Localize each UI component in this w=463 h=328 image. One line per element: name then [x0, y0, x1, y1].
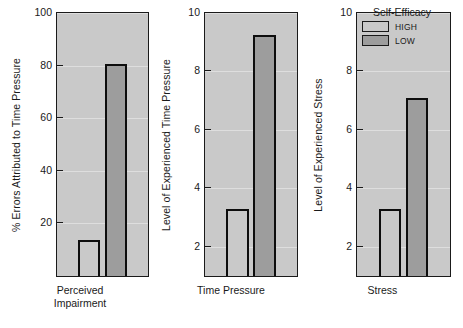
y-axis-tick-label: 20 [0, 216, 52, 228]
legend-label-high: HIGH [395, 22, 417, 32]
x-axis-label-line-1: Perceived [0, 284, 160, 297]
legend-label-low: LOW [395, 36, 415, 46]
legend-title: Self-Efficacy [354, 6, 450, 18]
y-axis-title: % Errors Attributed to Time Pressure [8, 12, 24, 278]
legend-item-low: LOW [362, 35, 450, 46]
bar-high [226, 209, 249, 277]
gridline [57, 66, 148, 67]
y-axis-tick [205, 129, 211, 130]
gridline [57, 118, 148, 119]
gridline [205, 130, 297, 131]
panel-time-pressure: Level of Experienced Time Pressure Time … [152, 0, 310, 328]
y-axis-tick [357, 246, 363, 247]
y-axis-tick-label: 10 [302, 6, 352, 18]
x-axis-label: Time Pressure [152, 284, 310, 297]
bar-high [78, 240, 100, 277]
y-axis-tick [57, 65, 63, 66]
y-axis-tick-label: 4 [152, 181, 200, 193]
gridline [205, 247, 297, 248]
legend-item-high: HIGH [362, 21, 450, 32]
y-axis-tick [205, 246, 211, 247]
y-axis-tick-label: 8 [302, 64, 352, 76]
gridline [205, 188, 297, 189]
legend-swatch-high [362, 21, 389, 32]
y-axis-tick-label: 40 [0, 164, 52, 176]
gridline [357, 130, 450, 131]
gridline [57, 13, 148, 14]
y-axis-tick-label: 6 [152, 123, 200, 135]
y-axis-tick [357, 70, 363, 71]
bar-low [253, 35, 276, 277]
y-axis-tick-label: 2 [152, 240, 200, 252]
gridline [57, 171, 148, 172]
y-axis-tick-label: 2 [302, 240, 352, 252]
x-axis-label-line-1: Stress [302, 284, 463, 297]
bar-high [379, 209, 402, 277]
panel-stress: Level of Experienced Stress Self-Efficac… [302, 0, 463, 328]
bar-low [105, 64, 127, 277]
x-axis-label: Perceived Impairment [0, 284, 160, 310]
y-axis-tick [205, 187, 211, 188]
gridline [205, 71, 297, 72]
y-axis-tick-label: 100 [0, 6, 52, 18]
y-axis-tick-label: 4 [302, 181, 352, 193]
legend-swatch-low [362, 35, 389, 46]
gridline [57, 223, 148, 224]
gridline [205, 13, 297, 14]
y-axis-tick-label: 60 [0, 111, 52, 123]
panel-perceived-impairment: % Errors Attributed to Time Pressure Per… [0, 0, 160, 328]
bar-chart-figure: % Errors Attributed to Time Pressure Per… [0, 0, 463, 328]
legend: Self-Efficacy HIGH LOW [354, 6, 450, 49]
plot-area [204, 12, 298, 277]
gridline [357, 71, 450, 72]
gridline [357, 247, 450, 248]
y-axis-tick-label: 80 [0, 59, 52, 71]
y-axis-tick-label: 8 [152, 64, 200, 76]
y-axis-tick-label: 10 [152, 6, 200, 18]
x-axis-label: Stress [302, 284, 463, 297]
y-axis-title: Level of Experienced Stress [310, 12, 326, 278]
y-axis-tick [57, 222, 63, 223]
x-axis-label-line-2: Impairment [0, 297, 160, 310]
y-axis-tick [357, 187, 363, 188]
x-axis-label-line-1: Time Pressure [152, 284, 310, 297]
y-axis-tick [205, 70, 211, 71]
bar-low [406, 98, 429, 277]
y-axis-tick [357, 129, 363, 130]
plot-area [56, 12, 149, 277]
gridline [357, 188, 450, 189]
y-axis-tick [57, 170, 63, 171]
y-axis-title: Level of Experienced Time Pressure [158, 12, 174, 278]
y-axis-tick [57, 117, 63, 118]
plot-area [356, 12, 451, 277]
y-axis-tick-label: 6 [302, 123, 352, 135]
